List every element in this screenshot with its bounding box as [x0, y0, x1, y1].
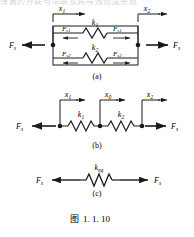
- panel-b-k1-label: k1: [78, 110, 85, 120]
- panel-b-force-left: Fs: [15, 122, 56, 132]
- panel-a-label: (a): [93, 72, 102, 81]
- panel-a-x1-label: x1: [58, 4, 66, 14]
- panel-b: x1 x0 x2 Fs Fs k1 k2: [15, 90, 178, 150]
- panel-b-k2-label: k2: [118, 110, 125, 120]
- panel-a-spring-k1: [83, 28, 107, 38]
- panel-a-branch-k1: k1 Fs1 Fs1: [53, 18, 138, 38]
- caption-number: 1. 1. 10: [83, 214, 111, 224]
- panel-b-x0-label: x0: [104, 90, 112, 100]
- panel-a: x1 x2 Fs Fs k1: [8, 4, 180, 81]
- panel-c-force-right-label: Fs: [153, 176, 161, 186]
- panel-a-Fs2-right-label: Fs2: [112, 50, 122, 58]
- panel-a-k1-label: k1: [92, 18, 99, 28]
- panel-a-node-right: [136, 43, 141, 48]
- panel-a-force-left: Fs: [8, 41, 45, 51]
- panel-b-force-right: Fs: [145, 122, 178, 132]
- panel-a-displacement-x2: x2: [138, 4, 167, 22]
- panel-a-branch-k2: k2 Fs2 Fs2: [53, 43, 138, 63]
- panel-c: Fs Fs keq (c): [35, 163, 161, 198]
- figure-caption: 图 1. 1. 10: [70, 214, 111, 224]
- panel-c-keq-label: keq: [95, 163, 104, 173]
- panel-b-label: (b): [92, 141, 102, 150]
- panel-a-node-left: [51, 43, 56, 48]
- panel-b-spring-k2: [108, 121, 134, 131]
- caption-prefix: 图: [70, 214, 79, 224]
- panel-b-force-left-label: Fs: [15, 122, 23, 132]
- panel-b-displacement-x2: x2: [142, 90, 167, 126]
- panel-c-label: (c): [93, 189, 102, 198]
- panel-b-node-3: [140, 124, 145, 129]
- panel-c-force-left-label: Fs: [35, 176, 43, 186]
- panel-c-force-left: Fs: [35, 176, 80, 186]
- panel-a-force-right-label: Fs: [172, 41, 180, 51]
- figure-canvas: x1 x2 Fs Fs k1: [0, 0, 194, 237]
- panel-c-force-right: Fs: [120, 176, 161, 186]
- panel-a-k2-label: k2: [92, 43, 99, 53]
- panel-b-node-2: [98, 124, 103, 129]
- spring-systems-figure: x1 x2 Fs Fs k1: [0, 0, 194, 237]
- panel-b-spring-k1: [68, 121, 94, 131]
- panel-a-force-right: Fs: [146, 41, 180, 51]
- panel-b-x1-label: x1: [64, 90, 72, 100]
- panel-b-node-1: [58, 124, 63, 129]
- panel-b-x2-label: x2: [146, 90, 154, 100]
- panel-a-force-left-label: Fs: [8, 41, 16, 51]
- panel-c-spring-keq: [86, 174, 112, 186]
- panel-a-Fs2-left-label: Fs2: [61, 50, 71, 58]
- panel-a-displacement-x1: x1: [53, 4, 85, 22]
- panel-b-force-right-label: Fs: [170, 122, 178, 132]
- panel-a-x2-label: x2: [143, 4, 151, 14]
- panel-a-spring-k2: [83, 53, 107, 63]
